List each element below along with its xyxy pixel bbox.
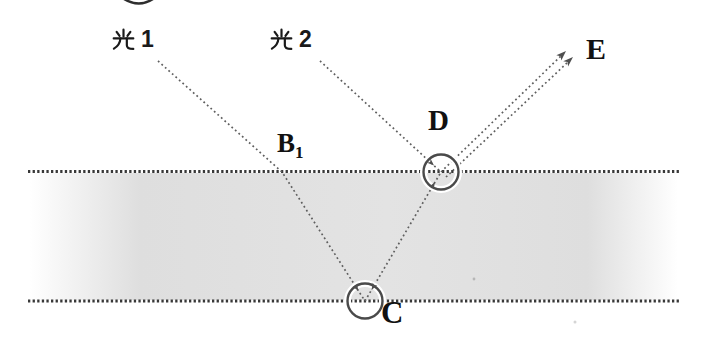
label-ray-1: 1 — [111, 27, 154, 52]
exit-ray-1 — [441, 55, 562, 172]
label-point-e: E — [586, 34, 606, 64]
label-point-b1: B1 — [277, 130, 304, 161]
label-point-d: D — [428, 106, 449, 135]
point-b-letter: B — [277, 128, 295, 158]
ray2-incident — [320, 61, 441, 172]
glass-slab — [30, 173, 678, 300]
scan-speck — [574, 321, 577, 324]
point-b-subscript: 1 — [295, 143, 304, 162]
guang-light-glyph-icon — [111, 27, 136, 52]
arrowhead-exit-ray-1-icon — [556, 48, 568, 60]
ray-2-number: 2 — [299, 27, 312, 52]
label-ray-2: 2 — [269, 27, 312, 52]
cropped-circle-fragment — [124, 0, 153, 4]
exit-ray-2 — [446, 61, 569, 177]
ray-1-number: 1 — [141, 27, 154, 52]
scan-speck — [473, 278, 476, 281]
optics-diagram: 1 2 B1 D E C — [0, 0, 707, 349]
guang-light-glyph-icon — [269, 27, 294, 52]
label-point-c: C — [381, 297, 403, 328]
arrowhead-exit-ray-2-icon — [563, 54, 575, 66]
